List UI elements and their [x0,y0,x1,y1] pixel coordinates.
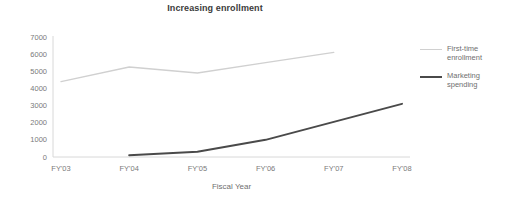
x-axis-tick-label: FY'04 [120,164,139,173]
x-axis-tick-label: FY'03 [51,164,70,173]
x-axis-tick-label: FY'07 [324,164,343,173]
y-axis-tick-label: 5000 [30,67,47,76]
y-axis-tick-label: 2000 [30,118,47,127]
legend-item-marketing-spending[interactable]: Marketing spending [420,71,509,89]
series-line-first-time-enrollment [61,52,334,81]
legend-swatch-first-time-enrollment [420,44,442,56]
x-axis-tick-label: FY'08 [392,164,411,173]
y-axis-tick-label: 3000 [30,101,47,110]
y-axis-tick-label: 4000 [30,84,47,93]
legend-label-first-time-enrollment: First-time enrollment [447,44,482,62]
plot-area: 01000200030004000500060007000FY'03FY'04F… [0,0,430,200]
series-line-marketing-spending [129,104,402,155]
chart-container: Increasing enrollment 010002000300040005… [0,0,509,200]
y-axis-tick-label: 6000 [30,50,47,59]
legend-label-marketing-spending: Marketing spending [447,71,480,89]
y-axis-tick-label: 0 [43,153,47,162]
legend-item-first-time-enrollment[interactable]: First-time enrollment [420,44,509,62]
chart-legend: First-time enrollment Marketing spending [420,44,509,98]
x-axis-tick-label: FY'06 [256,164,275,173]
y-axis-tick-label: 7000 [30,33,47,42]
x-axis-title: Fiscal Year [212,182,251,191]
y-axis-tick-label: 1000 [30,135,47,144]
x-axis-tick-label: FY'05 [188,164,207,173]
legend-swatch-marketing-spending [420,71,442,83]
